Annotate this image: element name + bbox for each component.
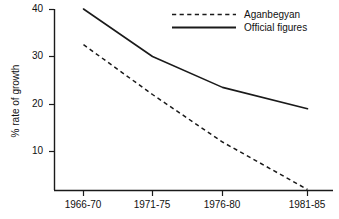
line-chart: % rate of growth 40 30 20 10 1966-70 197… [0,0,339,219]
legend-label-aganbegyan: Aganbegyan [244,10,300,20]
y-tick-label-20: 20 [17,99,43,109]
x-tick-label-1981-85: 1981-85 [275,200,339,210]
x-tick-label-1966-70: 1966-70 [51,200,115,210]
legend-label-official-figures: Official figures [244,23,307,33]
x-tick-label-1976-80: 1976-80 [190,200,254,210]
series-line-aganbegyan [84,45,308,190]
y-tick-label-30: 30 [17,51,43,61]
x-tick-label-1971-75: 1971-75 [120,200,184,210]
y-tick-label-40: 40 [17,4,43,14]
y-tick-label-10: 10 [17,146,43,156]
